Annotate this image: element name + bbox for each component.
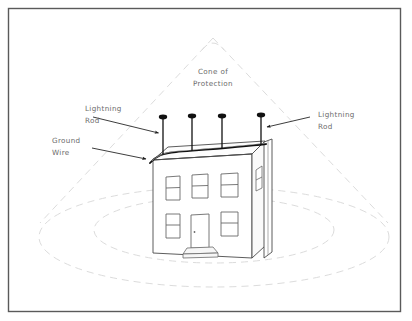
lightning-protection-diagram: Cone of Protection Lightning Rod Ground …	[0, 0, 412, 321]
door-stoop	[183, 247, 218, 258]
window-lower-2	[221, 212, 238, 236]
building-group	[153, 141, 265, 258]
side-windows	[256, 166, 262, 191]
window-upper-3	[221, 173, 238, 197]
ground-wire-label-line2: Wire	[52, 148, 70, 157]
window-side-upper	[256, 166, 262, 191]
ground-wire-label-line1: Ground	[52, 136, 81, 145]
cone-label-line1: Cone of	[198, 67, 228, 76]
lightning-rod-left-label-line1: Lightning	[85, 104, 122, 113]
diagram-canvas: Cone of Protection Lightning Rod Ground …	[0, 0, 412, 321]
lightning-rod-left-label-line2: Rod	[85, 116, 100, 125]
upper-windows	[166, 173, 238, 200]
window-upper-2	[192, 174, 208, 198]
down-conductor	[264, 139, 272, 258]
front-door	[191, 214, 209, 248]
cone-label-line2: Protection	[193, 79, 233, 88]
window-lower-1	[166, 214, 180, 238]
side-wall	[252, 141, 265, 258]
door-knob	[194, 231, 196, 233]
lightning-rod-right-label-line1: Lightning	[318, 110, 355, 119]
lightning-rod-right-label-line2: Rod	[318, 122, 333, 131]
window-upper-1	[166, 176, 180, 200]
